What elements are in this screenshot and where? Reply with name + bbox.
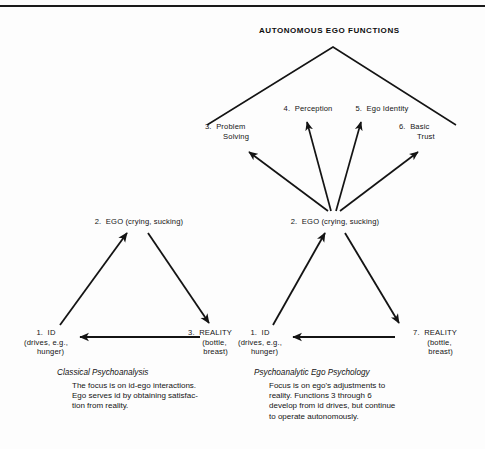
page-title: AUTONOMOUS EGO FUNCTIONS bbox=[259, 26, 400, 35]
left-node-id: 1. ID (drives, e.g., hunger) bbox=[8, 328, 84, 357]
arrow-right-id-to-ego bbox=[273, 233, 325, 325]
right-triangle-arrows bbox=[273, 233, 399, 337]
right-node-id: 1. ID (drives, e.g., hunger) bbox=[222, 328, 298, 357]
left-node-ego: 2. EGO (crying, sucking) bbox=[89, 217, 189, 227]
arrow-left-ego-to-reality bbox=[148, 233, 209, 323]
label-problem-solving: 3. Problem Solving bbox=[205, 122, 275, 141]
arrow-right-ego-to-reality bbox=[345, 233, 399, 323]
left-caption-title: Classical Psychoanalysis bbox=[57, 368, 148, 377]
label-ego-identity: 5. Ego Identity bbox=[332, 104, 432, 114]
arrow-left-id-to-ego bbox=[60, 233, 127, 325]
arrow-ego-to-basic-trust bbox=[340, 152, 418, 211]
left-caption-body: The focus is on id-ego interactions. Ego… bbox=[72, 381, 247, 412]
right-caption-title: Psychoanalytic Ego Psychology bbox=[254, 368, 370, 377]
right-caption-body: Focus is on ego's adjustments to reality… bbox=[269, 381, 464, 422]
label-basic-trust: 6. Basic Trust bbox=[399, 122, 469, 141]
diagram-page: AUTONOMOUS EGO FUNCTIONS 3. Problem Solv… bbox=[0, 0, 485, 449]
right-node-reality: 7. REALITY (bottle, breast) bbox=[395, 328, 475, 357]
right-node-ego: 2. EGO (crying, sucking) bbox=[285, 217, 385, 227]
left-triangle-arrows bbox=[60, 233, 209, 337]
arrow-ego-to-problem-solving bbox=[249, 152, 328, 211]
